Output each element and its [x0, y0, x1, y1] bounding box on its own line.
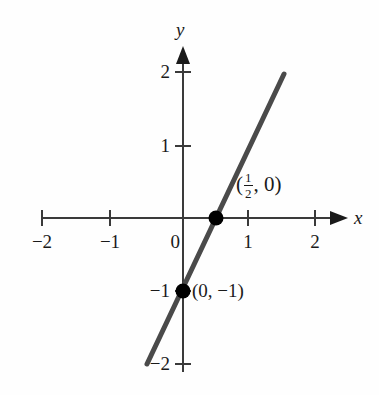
x-tick-label-2: 2: [307, 232, 323, 251]
graph-figure: y x −2 −1 0 1 2 2 1 −1 −2 (12, 0) (0, −1…: [0, 0, 379, 395]
fraction-numerator: 1: [244, 171, 253, 184]
point-y-intercept: [176, 284, 191, 299]
y-axis-arrow-icon: [176, 46, 190, 64]
y-tick-label-2: 2: [150, 62, 170, 81]
x-tick-label--2: −2: [26, 232, 58, 251]
x-intercept-rest: , 0): [254, 172, 282, 196]
y-intercept-annotation: (0, −1): [192, 281, 244, 300]
point-x-intercept: [209, 211, 224, 226]
x-tick-label--1: −1: [94, 232, 126, 251]
fraction-one-half: 12: [244, 171, 253, 201]
x-tick-label-1: 1: [240, 232, 256, 251]
x-intercept-annotation: (12, 0): [236, 172, 282, 202]
fraction-denominator: 2: [244, 187, 253, 200]
x-axis-arrow-icon: [330, 211, 348, 225]
y-axis-label: y: [176, 20, 184, 39]
coordinate-plane: [0, 0, 379, 395]
y-tick-label--2: −2: [136, 354, 170, 373]
y-tick-label-1: 1: [150, 136, 170, 155]
y-tick-label--1: −1: [136, 281, 170, 300]
x-intercept-open-paren: (: [236, 172, 243, 196]
x-axis-label: x: [354, 208, 362, 227]
x-tick-label-0: 0: [164, 232, 180, 251]
